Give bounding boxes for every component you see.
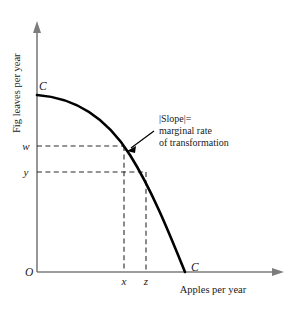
- slope-annotation-pointer: [127, 131, 154, 153]
- annotation-line-1: |Slope|=: [159, 113, 192, 124]
- annotation-line-2: marginal rate: [159, 125, 212, 136]
- y-tick-label-y: y: [23, 166, 29, 178]
- y-tick-label-w: w: [22, 140, 30, 152]
- y-axis-arrowhead: [33, 21, 41, 33]
- x-axis-title: Apples per year: [180, 284, 247, 295]
- y-axis-title: Fig leaves per year: [11, 53, 22, 133]
- x-tick-label-z: z: [143, 275, 149, 287]
- curve-bottom-label-c: C: [191, 261, 199, 273]
- chart-canvas: Fig leaves per year Apples per year O C …: [0, 0, 303, 309]
- ppf-chart-figure: Fig leaves per year Apples per year O C …: [0, 0, 303, 309]
- origin-label: O: [25, 266, 34, 278]
- x-axis: [37, 268, 284, 276]
- guide-lines: [37, 146, 146, 272]
- x-tick-label-x: x: [121, 275, 127, 287]
- x-axis-arrowhead: [272, 268, 284, 276]
- slope-annotation-text: |Slope|= marginal rate of transformation: [159, 113, 229, 148]
- pointer-line: [131, 131, 154, 148]
- annotation-line-3: of transformation: [159, 137, 229, 148]
- curve-top-label-c: C: [39, 80, 47, 92]
